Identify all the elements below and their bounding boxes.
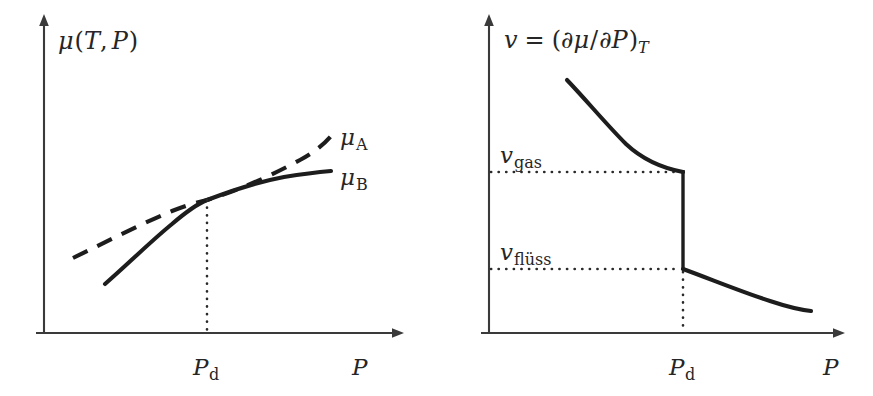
curve-label-mu-b-base: μ: [340, 164, 355, 190]
left-y-axis-arrowhead: [39, 14, 49, 26]
level-label-v-fluess: vflüss: [500, 239, 551, 269]
left-y-axis-title-mu: μ: [58, 27, 74, 55]
right-y-axis-title-dp: ∂P: [599, 26, 628, 54]
right-x-tick-label-pd-base: P: [668, 354, 685, 380]
right-y-axis-title-v: v: [504, 26, 518, 54]
left-y-axis-title-close-paren: ): [129, 27, 138, 55]
right-x-axis-label: P: [822, 354, 839, 380]
curve-mu-a: [73, 136, 331, 258]
right-y-axis-title-slash: /: [590, 26, 599, 54]
left-y-axis-title-open-paren: (: [75, 27, 84, 55]
level-label-v-gas-base: v: [500, 142, 513, 168]
curve-liquid-branch: [683, 269, 811, 311]
curve-label-mu-a-sub: A: [355, 135, 368, 154]
left-y-axis-title-comma: ,: [100, 27, 108, 55]
curve-label-mu-a-base: μ: [340, 124, 355, 150]
curve-label-mu-b: μB: [340, 164, 368, 194]
figure-container: μ(T,P) μA μB Pd P v=(∂μ/∂P)T: [0, 0, 873, 396]
level-label-v-fluess-base: v: [500, 239, 513, 265]
left-y-axis-title-P: P: [111, 27, 129, 55]
right-x-tick-label-pd-sub: d: [685, 365, 695, 384]
right-y-axis-arrowhead: [484, 14, 494, 26]
right-y-axis-title-sub-t: T: [638, 38, 650, 57]
left-x-tick-label-pd-base: P: [192, 354, 209, 380]
left-x-tick-label-pd-sub: d: [209, 365, 219, 384]
left-x-axis-arrowhead: [392, 328, 404, 338]
right-y-axis-title-equals: =: [525, 26, 545, 54]
right-y-axis-title-open-paren: (: [552, 26, 561, 54]
left-x-tick-label-pd: Pd: [192, 354, 219, 384]
right-y-axis-title-dmu: ∂μ: [561, 26, 589, 54]
right-x-tick-label-pd: Pd: [668, 354, 695, 384]
right-panel-molar-volume: v=(∂μ/∂P)T vgas vflüss Pd P: [430, 0, 873, 396]
left-x-axis-label: P: [351, 354, 368, 380]
curve-label-mu-a: μA: [340, 124, 368, 154]
level-label-v-fluess-sub: flüss: [514, 250, 551, 269]
right-y-axis-title: v=(∂μ/∂P)T: [504, 26, 650, 57]
curve-label-mu-b-sub: B: [356, 175, 368, 194]
level-label-v-gas-sub: gas: [514, 153, 542, 172]
left-panel-chemical-potential: μ(T,P) μA μB Pd P: [0, 0, 440, 396]
curve-gas-branch: [567, 80, 683, 172]
right-y-axis-title-close-paren: ): [629, 26, 638, 54]
left-y-axis-title: μ(T,P): [58, 27, 138, 55]
level-label-v-gas: vgas: [500, 142, 542, 172]
curve-mu-b: [105, 171, 331, 284]
right-x-axis-arrowhead: [833, 328, 845, 338]
